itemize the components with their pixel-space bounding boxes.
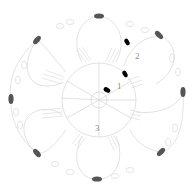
dark-markers [8, 13, 185, 181]
round-label-1: 1 [117, 81, 122, 91]
crochet-diagram: 1 2 3 [0, 0, 193, 193]
round-label-3: 3 [95, 123, 100, 133]
round-label-2: 2 [135, 51, 140, 61]
